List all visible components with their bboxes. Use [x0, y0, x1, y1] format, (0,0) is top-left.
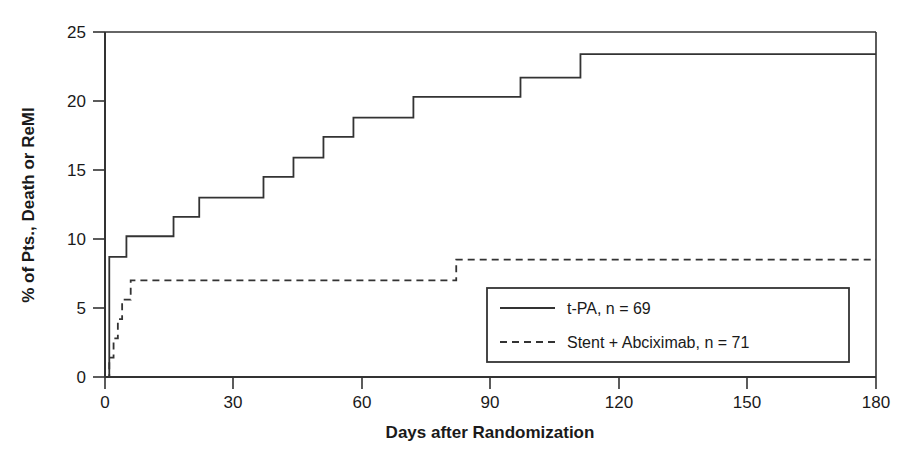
y-tick-label-15: 15 — [67, 161, 86, 180]
kaplan-meier-figure: 0 5 10 15 20 25 0 30 60 90 120 150 180 — [0, 0, 906, 456]
y-axis-tick-labels: 0 5 10 15 20 25 — [67, 23, 86, 387]
x-tick-label-90: 90 — [481, 393, 500, 412]
x-tick-label-60: 60 — [353, 393, 372, 412]
y-tick-label-5: 5 — [77, 299, 86, 318]
x-axis-title: Days after Randomization — [386, 423, 595, 442]
legend: t-PA, n = 69 Stent + Abciximab, n = 71 — [487, 288, 849, 362]
x-tick-label-120: 120 — [605, 393, 633, 412]
y-tick-label-0: 0 — [77, 368, 86, 387]
y-axis-ticks — [93, 32, 105, 377]
y-tick-label-25: 25 — [67, 23, 86, 42]
chart-canvas: 0 5 10 15 20 25 0 30 60 90 120 150 180 — [0, 0, 906, 456]
y-axis-title: % of Pts., Death or ReMI — [19, 107, 38, 303]
y-tick-label-20: 20 — [67, 92, 86, 111]
x-tick-label-0: 0 — [100, 393, 109, 412]
x-axis-ticks — [105, 377, 876, 389]
y-tick-label-10: 10 — [67, 230, 86, 249]
x-tick-label-30: 30 — [224, 393, 243, 412]
legend-label-stent-abciximab: Stent + Abciximab, n = 71 — [567, 334, 749, 351]
x-tick-label-180: 180 — [862, 393, 890, 412]
x-tick-label-150: 150 — [733, 393, 761, 412]
x-axis-tick-labels: 0 30 60 90 120 150 180 — [100, 393, 890, 412]
legend-label-t-pa: t-PA, n = 69 — [567, 300, 651, 317]
